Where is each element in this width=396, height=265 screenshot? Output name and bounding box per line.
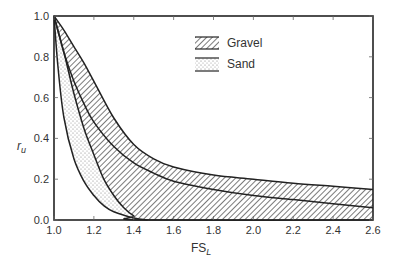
y-tick-label: 0.2 [34, 173, 49, 185]
y-tick-label: 0.4 [34, 132, 49, 144]
legend-item-sand: Sand [195, 57, 255, 71]
x-tick-label: 2.0 [246, 224, 261, 236]
x-tick-label: 1.8 [206, 224, 221, 236]
x-axis-tick-labels: 1.01.21.41.61.82.02.22.42.6 [46, 224, 380, 236]
y-tick-label: 0.8 [34, 51, 49, 63]
chart: 1.01.21.41.61.82.02.22.42.6 0.00.20.40.6… [0, 0, 396, 265]
x-tick-label: 2.2 [286, 224, 301, 236]
legend: Gravel Sand [195, 36, 262, 71]
legend-item-gravel: Gravel [195, 36, 262, 50]
gravel-swatch-icon [195, 37, 219, 49]
y-tick-label: 1.0 [34, 10, 49, 22]
y-tick-label: 0.0 [34, 214, 49, 226]
x-axis-label-subscript: L [206, 247, 211, 257]
x-tick-label: 1.6 [166, 224, 181, 236]
y-axis-label-subscript: u [21, 145, 26, 155]
sand-swatch-icon [195, 58, 219, 70]
x-tick-label: 1.4 [126, 224, 141, 236]
legend-label-gravel: Gravel [227, 36, 262, 50]
x-tick-label: 1.2 [86, 224, 101, 236]
x-tick-label: 2.6 [365, 224, 380, 236]
y-tick-label: 0.6 [34, 92, 49, 104]
x-tick-label: 2.4 [325, 224, 340, 236]
y-axis-label: ru [17, 139, 26, 155]
y-axis-tick-labels: 0.00.20.40.60.81.0 [34, 10, 49, 226]
legend-label-sand: Sand [227, 57, 255, 71]
x-axis-label: FSL [191, 241, 211, 257]
